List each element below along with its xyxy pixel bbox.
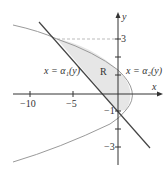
line-curve bbox=[39, 22, 150, 148]
region-label: R bbox=[100, 67, 107, 77]
x-tick-label-neg10: −10 bbox=[20, 99, 36, 109]
diagram-canvas bbox=[0, 0, 168, 175]
y-tick-label-3: 3 bbox=[121, 34, 126, 44]
left-curve-label: x = α₁(y) bbox=[44, 66, 80, 76]
x-axis-label: x bbox=[152, 82, 156, 92]
y-axis-arrow-icon bbox=[116, 12, 121, 18]
x-axis-arrow-icon bbox=[157, 92, 163, 97]
y-tick-label-neg1: −1 bbox=[104, 106, 115, 116]
right-curve-label: x = α₂(y) bbox=[126, 66, 162, 76]
x-tick-label-neg5: −5 bbox=[66, 99, 77, 109]
y-axis-label: y bbox=[122, 12, 126, 22]
y-tick-label-neg3: −3 bbox=[104, 142, 115, 152]
